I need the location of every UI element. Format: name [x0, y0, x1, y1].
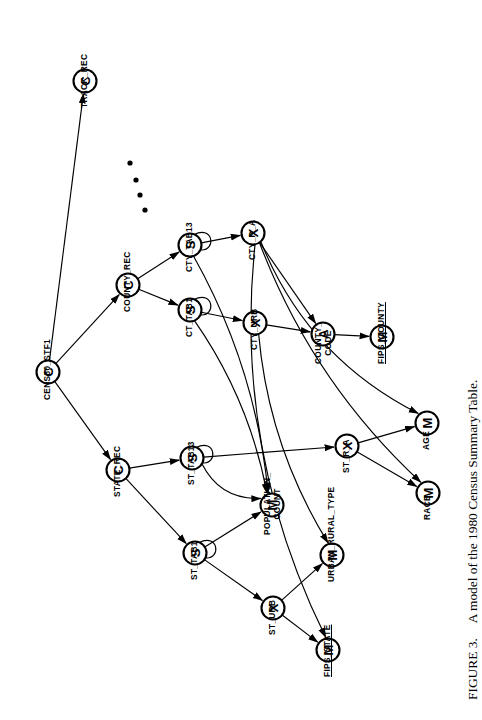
edge-st_tab13-to-st_r_a — [203, 447, 334, 457]
diagram-canvas: CCCCSSSSXXXXAMMMMMM — [0, 0, 482, 720]
node-label-state_rec: STATE_REC — [112, 446, 122, 497]
node-label-county_rec: COUNTY_REC — [122, 251, 132, 312]
figure-caption-text: A model of the 1980 Census Summary Table… — [465, 380, 480, 624]
edge-state_rec-to-st_tab13 — [129, 460, 179, 468]
node-label-track_rec: TRACK_REC — [79, 54, 89, 108]
node-layer: CCCCSSSSXXXXAMMMMMM — [37, 70, 440, 662]
edge-state_rec-to-st_tab1 — [126, 478, 186, 543]
edge-st_urb-to-fips_state — [282, 615, 318, 642]
figure-page: CCCCSSSSXXXXAMMMMMM CENS80_STF1TRACK_REC… — [0, 0, 482, 720]
node-label-cty_tab13: CTY_TAB13 — [184, 222, 194, 272]
figure-caption-number: FIGURE 3. — [465, 638, 480, 700]
edge-st_r_a-to-age — [358, 427, 414, 443]
node-label-urban_rural_type: URBAN_RURAL_TYPE — [326, 487, 336, 583]
ellipsis-dot-3 — [137, 192, 142, 197]
edge-cens80_stf1-to-county_rec — [56, 295, 119, 364]
node-label-cty_r_a: CTY_R_A — [247, 220, 257, 260]
node-label-cty_urb: CTY_URB — [249, 308, 259, 350]
node-label-st_tab1: ST_TAB1 — [189, 541, 199, 580]
edge-st_urb-to-urban_rural_type — [282, 564, 323, 601]
node-label-line: CODE — [323, 322, 333, 364]
edge-cty_r_a-to-fips_state — [251, 244, 326, 637]
node-label-age: AGE — [421, 431, 431, 450]
edge-layer — [49, 94, 420, 642]
edge-st_tab1-to-st_urb — [204, 560, 262, 601]
ellipsis-dots — [127, 160, 147, 212]
node-label-ct_tab1: CT_TAB1 — [184, 298, 194, 337]
node-label-line: POPULATION_ — [262, 473, 272, 535]
edge-st_tab13-to-population_count — [202, 464, 261, 499]
node-label-race: RACE — [422, 495, 432, 520]
edge-cty_urb-to-county_code — [266, 325, 310, 332]
node-label-county_code: COUNTY_CODE — [313, 322, 333, 364]
ellipsis-dot-4 — [142, 207, 147, 212]
node-label-st_r_a: ST_R_A — [341, 439, 351, 473]
node-label-st_urb: ST_URB — [267, 600, 277, 635]
edge-cty_r_a-to-county_code — [260, 242, 316, 323]
node-label-line: COUNT — [272, 473, 282, 535]
edge-cty_tab13-to-cty_r_a — [201, 235, 240, 242]
figure-caption: FIGURE 3. A model of the 1980 Census Sum… — [465, 380, 481, 700]
edge-st_tab1-to-population_count — [205, 512, 261, 547]
node-label-cens80_stf1: CENS80_STF1 — [42, 339, 52, 400]
node-label-line: COUNTY_ — [313, 322, 323, 364]
node-label-fips_county: FIPS_COUNTY — [376, 302, 386, 364]
node-glyph-age: M — [420, 418, 435, 429]
ellipsis-dot-1 — [127, 160, 132, 165]
node-label-population_count: POPULATION_COUNT — [262, 473, 282, 535]
node-label-st_tab13: ST_TAB13 — [186, 441, 196, 485]
edge-county_rec-to-cty_tab13 — [138, 252, 179, 279]
edge-cens80_stf1-to-state_rec — [55, 381, 111, 459]
edge-county_rec-to-ct_tab1 — [139, 289, 178, 305]
node-label-fips_state: FIPS_STATE — [322, 624, 332, 677]
edge-county_code-to-fips_county — [334, 335, 369, 337]
edge-cens80_stf1-to-track_rec — [49, 94, 83, 361]
ellipsis-dot-2 — [133, 177, 138, 182]
